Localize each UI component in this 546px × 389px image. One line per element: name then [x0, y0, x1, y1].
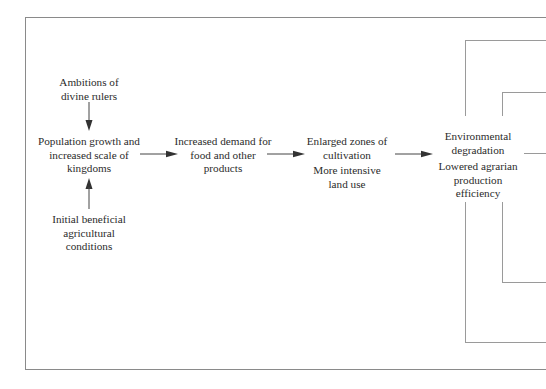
outer-bracket-upper-vertical	[465, 40, 466, 116]
frame-left-border	[25, 17, 26, 370]
node-line: Lowered agrarian	[438, 160, 517, 174]
arrow-up-icon	[84, 178, 94, 209]
node-line: Environmental	[445, 130, 512, 144]
node-line: kingdoms	[38, 162, 140, 176]
node-increased-demand: Increased demand for food and other prod…	[175, 135, 272, 176]
frame-bottom-border	[25, 369, 546, 370]
arrow-down-icon	[84, 102, 94, 131]
node-population-growth: Population growth and increased scale of…	[38, 135, 140, 176]
node-ambitions-of-divine-rulers: Ambitions of divine rulers	[59, 76, 118, 103]
node-line: agricultural	[52, 227, 126, 241]
frame-top-border	[25, 17, 546, 18]
node-enlarged-zones: Enlarged zones of cultivation	[307, 135, 388, 162]
node-line: Enlarged zones of	[307, 135, 388, 149]
node-line: land use	[313, 178, 380, 192]
node-line: food and other	[175, 149, 272, 163]
outer-bracket-top-horizontal	[465, 40, 546, 41]
node-line: increased scale of	[38, 149, 140, 163]
node-line: Ambitions of	[59, 76, 118, 90]
node-environmental-degradation: Environmental degradation	[445, 130, 512, 157]
arrow-right-icon	[140, 150, 178, 158]
inner-bracket-lower-vertical	[502, 202, 503, 283]
arrow-right-icon	[267, 150, 305, 158]
node-line: products	[175, 162, 272, 176]
node-line: degradation	[445, 144, 512, 158]
inner-bracket-top-horizontal	[502, 92, 546, 93]
inner-bracket-upper-vertical	[502, 92, 503, 116]
outer-bracket-lower-vertical	[465, 202, 466, 343]
node-line: efficiency	[438, 187, 517, 201]
middle-feedback-line	[524, 153, 546, 154]
node-line: production	[438, 174, 517, 188]
node-lowered-agrarian-efficiency: Lowered agrarian production efficiency	[438, 160, 517, 201]
node-line: More intensive	[313, 164, 380, 178]
node-line: Initial beneficial	[52, 213, 126, 227]
node-initial-beneficial-conditions: Initial beneficial agricultural conditio…	[52, 213, 126, 254]
node-line: Population growth and	[38, 135, 140, 149]
arrow-right-icon	[395, 150, 433, 158]
node-line: conditions	[52, 240, 126, 254]
outer-bracket-bottom-horizontal	[465, 342, 546, 343]
node-more-intensive-land-use: More intensive land use	[313, 164, 380, 191]
inner-bracket-bottom-horizontal	[502, 282, 546, 283]
node-line: cultivation	[307, 149, 388, 163]
node-line: Increased demand for	[175, 135, 272, 149]
node-line: divine rulers	[59, 90, 118, 104]
